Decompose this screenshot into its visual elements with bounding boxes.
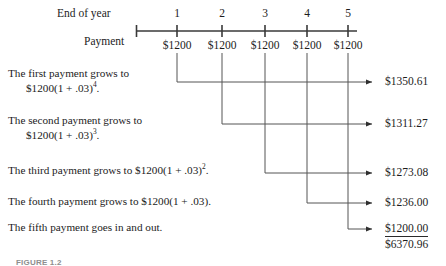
annuity-future-value-timeline-figure: End of year Payment 1 2 3 4 5 $1200 $120… [0,0,446,266]
end-of-year-label: End of year [57,8,111,20]
statement-4: The fourth payment grows to $1200(1 + .0… [8,196,211,207]
future-value-1: $1350.61 [385,76,428,88]
statement-2-expression: $1200(1 + .03) [26,129,93,141]
statement-3: The third payment grows to $1200(1 + .03… [8,165,208,176]
future-value-4: $1236.00 [385,197,428,209]
payment-amount-5: $1200 [325,40,371,52]
statement-1-line-2: $1200(1 + .03)4. [26,83,99,94]
statement-1-line-1: The first payment grows to [8,68,129,79]
year-label-5: 5 [336,8,360,20]
time-axis [136,25,357,37]
payment-amount-2: $1200 [199,40,245,52]
figure-caption: FIGURE 1.2 [16,259,62,266]
future-value-5: $1200.00 [385,223,428,237]
statement-2-line-2: $1200(1 + .03)3. [26,130,99,141]
payment-amount-3: $1200 [242,40,288,52]
payment-amount-1: $1200 [154,40,200,52]
payment-drop-stubs [177,53,348,62]
statement-3-period: . [206,164,209,176]
statement-1-period: . [97,82,100,94]
year-label-3: 3 [253,8,277,20]
statement-5: The fifth payment goes in and out. [8,222,162,233]
year-label-4: 4 [295,8,319,20]
connector-payment-1 [177,62,372,82]
connector-payment-5 [348,62,372,229]
future-value-3: $1273.08 [385,167,428,179]
statement-2-period: . [97,129,100,141]
payment-amount-4: $1200 [284,40,330,52]
connector-payment-4 [307,62,372,203]
payment-row-label: Payment [84,36,124,48]
future-value-total: $6370.96 [385,239,428,251]
statement-3-text: The third payment grows to $1200(1 + .03… [8,164,202,176]
year-label-2: 2 [210,8,234,20]
statement-2-line-1: The second payment grows to [8,115,142,126]
future-value-2: $1311.27 [385,118,428,130]
connector-payment-2 [222,62,372,124]
statement-1-expression: $1200(1 + .03) [26,82,93,94]
year-label-1: 1 [165,8,189,20]
connector-payment-3 [265,62,372,173]
